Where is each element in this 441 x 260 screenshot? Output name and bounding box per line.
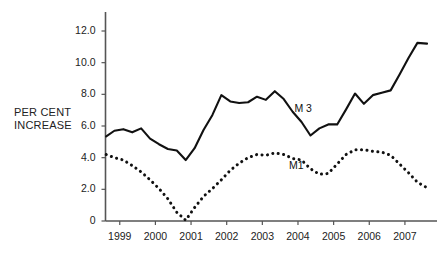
y-tick-label: 0: [64, 215, 96, 226]
series-line-m1: [106, 150, 427, 220]
y-tick-label: 6.0: [64, 120, 96, 131]
x-tick-label: 2005: [314, 231, 354, 242]
chart-container: PER CENT INCREASE 02.04.06.08.010.012.0 …: [0, 0, 441, 260]
x-tick-label: 2006: [349, 231, 389, 242]
x-tick-label: 2004: [278, 231, 318, 242]
y-tick-label: 10.0: [64, 57, 96, 68]
x-tick-label: 2000: [135, 231, 175, 242]
y-tick-label: 12.0: [64, 25, 96, 36]
series-line-m3: [106, 43, 427, 160]
x-tick-label: 1999: [100, 231, 140, 242]
x-tick-label: 2007: [385, 231, 425, 242]
x-tick-label: 2002: [207, 231, 247, 242]
y-tick-label: 8.0: [64, 88, 96, 99]
x-tick-label: 2001: [171, 231, 211, 242]
series-label-m1: M1: [289, 160, 304, 171]
series-label-m3: M 3: [294, 103, 312, 114]
y-tick-label: 4.0: [64, 152, 96, 163]
x-tick-label: 2003: [242, 231, 282, 242]
axis-lines: [106, 12, 438, 221]
y-tick-label: 2.0: [64, 183, 96, 194]
